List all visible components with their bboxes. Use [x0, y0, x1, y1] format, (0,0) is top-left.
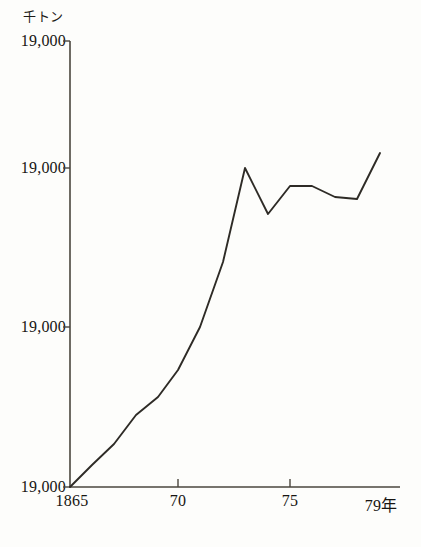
data-series-line: [70, 153, 380, 487]
chart-figure: 千トン 19,000 19,000 19,000 19,000 1865 70 …: [0, 0, 421, 547]
plot-area: [0, 0, 421, 547]
y-axis-ticks: [63, 41, 70, 487]
x-axis-ticks: [178, 479, 290, 487]
